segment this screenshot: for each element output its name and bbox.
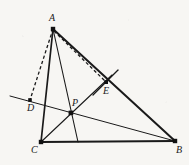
point-label-C: C [31, 145, 38, 155]
geometry-figure: A B C D E P [0, 0, 189, 165]
segment-cevian-c-to-e [41, 75, 112, 142]
point-marker-A [51, 27, 55, 31]
segment-dashed-a-to-e [54, 31, 107, 83]
point-label-A: A [49, 13, 55, 23]
point-label-P: P [72, 98, 78, 108]
point-marker-C [39, 140, 43, 144]
segment-cevian-a-to-bc [53, 29, 78, 142]
point-label-D: D [27, 103, 34, 113]
point-label-B: B [176, 145, 182, 155]
geometry-canvas [0, 0, 189, 165]
point-marker-E [104, 80, 108, 84]
segment-side-BC [41, 141, 175, 142]
point-marker-B [173, 139, 177, 143]
point-marker-P [69, 111, 74, 116]
point-label-E: E [103, 86, 109, 96]
